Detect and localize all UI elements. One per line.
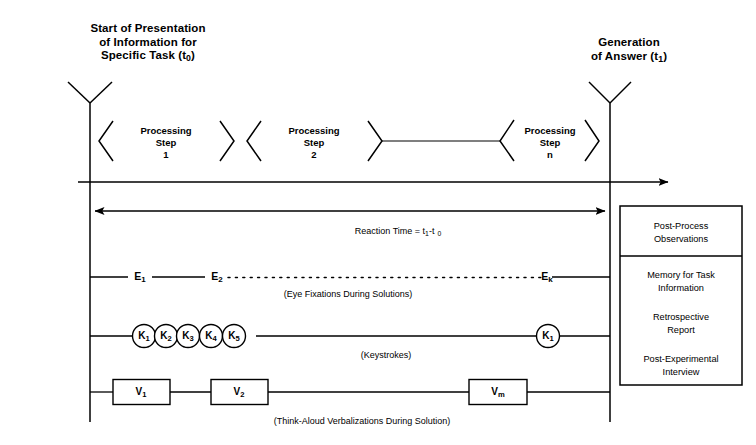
end-header-line-2: of Answer (t1) — [591, 50, 667, 65]
reaction-time-label: Reaction Time = t1-t0 — [355, 226, 441, 238]
keystroke-node-4: K4 — [205, 330, 216, 344]
verbalization-node-2: V2 — [234, 386, 245, 400]
reaction-time-mid: -t — [429, 226, 435, 236]
eye-fixation-caption: (Eye Fixations During Solutions) — [284, 289, 413, 300]
end-header-line-2-text: of Answer (t — [591, 50, 658, 62]
start-header-tail: ) — [191, 49, 195, 61]
verbalization-node-1: V1 — [136, 386, 147, 400]
keystroke-node-3-sub: 3 — [190, 334, 194, 343]
start-header: Start of Presentation of Information for… — [90, 22, 205, 64]
processing-step-1-line-3: 1 — [140, 149, 191, 161]
panel-item-post-experimental-interview[interactable]: Post-Experimental Interview — [620, 353, 742, 379]
processing-step-1-line-1: Processing — [140, 125, 191, 137]
eye-fixation-node-k-sub: k — [548, 275, 552, 284]
end-header-tail: ) — [663, 50, 667, 62]
processing-step-2-line-2: Step — [288, 137, 339, 149]
diagram-canvas: Start of Presentation of Information for… — [0, 0, 756, 445]
end-header: Generation of Answer (t1) — [591, 36, 667, 64]
verbalization-node-2-base: V — [234, 386, 241, 397]
processing-step-1-line-2: Step — [140, 137, 191, 149]
eye-fixation-node-k: Ek — [541, 270, 552, 285]
keystroke-node-3: K3 — [182, 330, 193, 344]
eye-fixation-node-1-sub: 1 — [141, 275, 145, 284]
panel-item-retrospective-report[interactable]: Retrospective Report — [620, 311, 742, 337]
verbalization-caption: (Think-Aloud Verbalizations During Solut… — [274, 416, 451, 427]
processing-step-2-line-3: 2 — [288, 149, 339, 161]
keystroke-node-last-sub: 1 — [550, 334, 554, 343]
keystroke-node-5: K5 — [228, 330, 239, 344]
reaction-time-sub-0: 0 — [437, 230, 441, 237]
processing-step-2-label: Processing Step 2 — [288, 125, 339, 161]
panel-header-post-process-observations: Post-Process Observations — [620, 220, 742, 246]
eye-fixation-node-1: E1 — [134, 270, 145, 285]
eye-fixation-row-lines — [90, 277, 610, 278]
keystroke-node-2: K2 — [160, 330, 171, 344]
verbalization-node-m-base: V — [491, 386, 498, 397]
processing-step-1-label: Processing Step 1 — [140, 125, 191, 161]
eye-fixation-node-2: E2 — [211, 270, 222, 285]
verbalization-node-2-sub: 2 — [240, 390, 244, 399]
start-header-line-3-text: Specific Task (t — [101, 49, 186, 61]
verbalization-node-m-sub: m — [498, 390, 505, 399]
eye-fixation-node-2-sub: 2 — [218, 275, 222, 284]
keystroke-node-1-sub: 1 — [146, 334, 150, 343]
start-header-line-3: Specific Task (t0) — [90, 49, 205, 64]
start-header-line-2: of Information for — [90, 36, 205, 50]
eye-fixation-node-1-base: E — [134, 270, 141, 282]
processing-step-n-line-1: Processing — [524, 125, 575, 137]
keystroke-node-last: K1 — [542, 330, 553, 344]
eye-fixation-node-2-base: E — [211, 270, 218, 282]
keystroke-node-1: K1 — [138, 330, 149, 344]
panel-item-memory-for-task-information[interactable]: Memory for Task Information — [620, 269, 742, 295]
reaction-time-prefix: Reaction Time = t — [355, 226, 425, 236]
processing-step-2-line-1: Processing — [288, 125, 339, 137]
processing-step-n-line-3: n — [524, 149, 575, 161]
keystroke-node-4-sub: 4 — [213, 334, 217, 343]
start-header-line-1: Start of Presentation — [90, 22, 205, 36]
keystroke-caption: (Keystrokes) — [361, 350, 412, 361]
verbalization-node-1-base: V — [136, 386, 143, 397]
verbalization-node-m: Vm — [491, 386, 504, 400]
eye-fixation-node-k-base: E — [541, 270, 548, 282]
verbalization-node-1-sub: 1 — [142, 390, 146, 399]
keystroke-node-5-sub: 5 — [236, 334, 240, 343]
processing-step-n-line-2: Step — [524, 137, 575, 149]
processing-step-n-label: Processing Step n — [524, 125, 575, 161]
end-header-line-1: Generation — [591, 36, 667, 50]
keystroke-node-2-sub: 2 — [168, 334, 172, 343]
